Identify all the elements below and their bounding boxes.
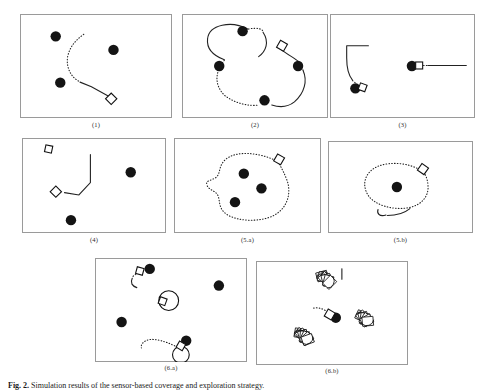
dotted-trajectory-path (217, 28, 303, 105)
solid-trajectory-path (347, 46, 467, 80)
panel-5b (328, 141, 473, 233)
panel-4 (22, 138, 166, 233)
obstacle-disc (66, 215, 76, 225)
solid-trajectory-path (64, 155, 90, 195)
obstacle-disc (259, 95, 269, 105)
panel-4-label: (4) (22, 235, 166, 244)
panel-2-canvas (182, 14, 328, 118)
panel-2-label: (2) (182, 120, 328, 129)
obstacle-disc (214, 61, 224, 71)
obstacle-disc (293, 61, 303, 71)
obstacle-disc (51, 31, 61, 41)
dotted-trajectory-path (207, 153, 289, 220)
obstacle-disc (126, 167, 136, 177)
obstacle-disc (145, 264, 155, 274)
panel-6b-label: (6.b) (256, 366, 408, 375)
obstacle-disc (108, 45, 118, 55)
solid-trajectory-path (80, 82, 110, 97)
figure-caption-text: Simulation results of the sensor-based c… (31, 381, 264, 390)
obstacle-disc (239, 168, 249, 178)
panel-3-canvas (330, 14, 475, 118)
panel-4-canvas (22, 138, 166, 233)
obstacle-disc (116, 317, 126, 327)
panel-2 (182, 14, 328, 118)
panel-5a-canvas (174, 138, 321, 233)
obstacle-disc (214, 280, 224, 290)
panel-3-label: (3) (330, 120, 475, 129)
panel-5b-label: (5.b) (328, 235, 473, 244)
panel-1 (20, 14, 172, 118)
robot-footprint-cluster (315, 270, 337, 289)
robot-icon (106, 93, 117, 104)
figure-caption: Fig. 2. Simulation results of the sensor… (8, 381, 482, 392)
panel-1-canvas (20, 14, 172, 118)
dotted-trajectory-path (313, 308, 325, 311)
figure-caption-prefix: Fig. 2. (8, 381, 29, 390)
obstacle-disc (55, 77, 65, 87)
robot-footprint-cluster (355, 310, 374, 328)
panel-6a-label: (6.a) (95, 363, 247, 372)
panel-6a-canvas (95, 258, 247, 362)
panel-5b-canvas (328, 141, 473, 233)
obstacle-disc (256, 183, 266, 193)
robot-icon (136, 267, 145, 276)
robot-icon (277, 40, 288, 51)
robot-icon (158, 297, 167, 306)
panel-3 (330, 14, 475, 118)
robot-icon (44, 145, 52, 153)
panel-5a (174, 138, 321, 233)
robot-footprint-cluster (294, 327, 315, 346)
figure-container: (1) (2) (3) (4) (5.a) (5.b) (6.a) (6.b) … (0, 0, 490, 392)
robot-icon (416, 62, 423, 69)
obstacle-disc (392, 182, 402, 192)
panel-6a (95, 258, 247, 362)
dotted-trajectory-path (67, 34, 84, 81)
panel-6b (256, 261, 408, 365)
solid-trajectory-path (378, 209, 410, 216)
panel-5a-label: (5.a) (174, 235, 321, 244)
robot-icon (417, 163, 428, 174)
obstacle-disc (237, 26, 247, 36)
robot-icon (274, 154, 285, 165)
robot-icon (358, 83, 367, 92)
solid-trajectory-path (131, 278, 136, 287)
panel-6b-canvas (256, 261, 408, 365)
panel-1-label: (1) (20, 120, 172, 129)
obstacle-disc (230, 197, 240, 207)
robot-icon (50, 186, 61, 197)
